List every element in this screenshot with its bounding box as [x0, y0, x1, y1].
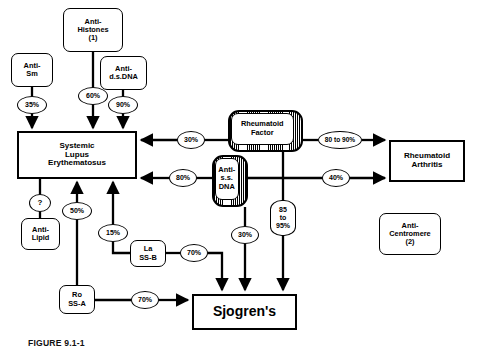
- edge-label-anti-ss-dna-ra: 40%: [322, 169, 350, 187]
- edge-label-ro-ss-a-sjogrens: 70%: [131, 291, 159, 309]
- node-ro-ss-a[interactable]: Ro SS-A: [59, 285, 95, 314]
- edge-label-ro-ss-a-sle: 50%: [62, 202, 92, 220]
- node-anti-histones[interactable]: Anti- Histones (1): [63, 8, 123, 52]
- diagram-canvas: Anti- Histones (1) Anti- Sm Anti- d.s.DN…: [0, 0, 480, 349]
- edge-label-anti-ds-dna-sle: 90%: [108, 96, 138, 114]
- edge-label-rf-sle: 30%: [177, 131, 205, 149]
- edge-label-rf-sjogrens: 85 to 95%: [270, 200, 296, 236]
- node-systemic-lupus-erythematosus[interactable]: Systemic Lupus Erythematosus: [17, 131, 137, 179]
- node-anti-lipid[interactable]: Anti- Lipid: [21, 218, 60, 250]
- figure-caption: FIGURE 9.1-1: [28, 338, 85, 348]
- node-sjogrens[interactable]: Sjogren's: [192, 294, 297, 330]
- edge-label-anti-lipid-sle: ?: [29, 194, 51, 212]
- node-anti-sm[interactable]: Anti- Sm: [11, 53, 53, 87]
- node-rheumatoid-factor[interactable]: Rheumatoid Factor: [228, 110, 303, 152]
- rheumatoid-factor-label: Rheumatoid Factor: [231, 113, 295, 146]
- anti-ss-dna-label: Anti- s.s. DNA: [215, 158, 240, 201]
- node-anti-ss-dna[interactable]: Anti- s.s. DNA: [212, 155, 248, 207]
- node-anti-centromere[interactable]: Anti- Centromere (2): [379, 213, 441, 255]
- edge-label-la-ss-b-sjogrens: 70%: [180, 244, 208, 262]
- edge-label-rf-ra: 80 to 90%: [318, 131, 362, 149]
- edge-label-anti-sm-sle: 35%: [17, 96, 47, 114]
- edge-label-anti-histones-sle: 60%: [78, 87, 108, 105]
- node-anti-ds-dna[interactable]: Anti- d.s.DNA: [100, 56, 147, 90]
- node-rheumatoid-arthritis[interactable]: Rheumatoid Arthritis: [389, 140, 465, 182]
- node-la-ss-b[interactable]: La SS-B: [130, 240, 166, 267]
- edge-label-anti-ss-dna-sle: 80%: [169, 169, 197, 187]
- edge-label-anti-ss-dna-sjogrens: 30%: [231, 226, 259, 244]
- edge-label-la-ss-b-sle: 15%: [98, 224, 128, 242]
